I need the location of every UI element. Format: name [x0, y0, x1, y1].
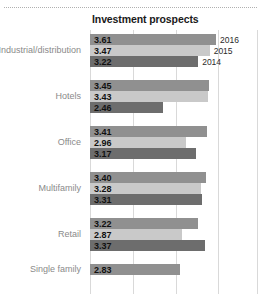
category-label-industrial-distribution: Industrial/distribution	[0, 46, 81, 55]
bar-value-label: 3.47	[94, 46, 112, 55]
bar-row: 2.96	[90, 137, 258, 148]
bar-value-label: 2.46	[94, 103, 112, 112]
bar-group: 3.412.963.17	[90, 126, 258, 159]
plot-right-border	[257, 30, 258, 294]
bar-row: 2.46	[90, 102, 258, 113]
bar-value-label: 2.96	[94, 138, 112, 147]
bar-row: 3.612016	[90, 34, 258, 45]
legend-year-2015: 2015	[210, 46, 233, 56]
bar-value-label: 3.45	[94, 81, 112, 90]
bar-value-label: 3.37	[94, 241, 112, 250]
bar-row: 3.222014	[90, 56, 258, 67]
bar-row: 3.40	[90, 172, 258, 183]
bar-row: 2.83	[90, 264, 258, 275]
bar-value-label: 3.40	[94, 173, 112, 182]
bar-row: 3.43	[90, 91, 258, 102]
bar-group: 2.83	[90, 264, 258, 275]
bar-group: 3.6120163.4720153.222014	[90, 34, 258, 67]
plot-area: 3.6120163.4720153.2220143.453.432.463.41…	[90, 30, 258, 294]
bar-value-label: 3.22	[94, 57, 112, 66]
bar-group: 3.222.873.37	[90, 218, 258, 251]
legend-year-2016: 2016	[216, 35, 239, 45]
bar-row: 3.31	[90, 194, 258, 205]
bar-row: 3.472015	[90, 45, 258, 56]
gridline	[218, 30, 219, 294]
bar-group: 3.453.432.46	[90, 80, 258, 113]
chart-title: Investment prospects	[92, 13, 199, 25]
bar-value-label: 2.87	[94, 230, 112, 239]
top-dotted-rule	[4, 7, 257, 8]
bar-value-label: 3.22	[94, 219, 112, 228]
category-label-retail: Retail	[58, 230, 81, 239]
bar-value-label: 2.83	[94, 265, 112, 274]
gridline	[90, 30, 91, 294]
investment-prospects-chart: Investment prospects Industrial/distribu…	[0, 0, 261, 302]
bar-value-label: 3.43	[94, 92, 112, 101]
category-label-single-family: Single family	[30, 265, 81, 274]
bar-group: 3.403.283.31	[90, 172, 258, 205]
bar-row: 3.41	[90, 126, 258, 137]
gridline	[133, 30, 134, 294]
bar-row: 3.45	[90, 80, 258, 91]
category-label-multifamily: Multifamily	[38, 184, 81, 193]
gridline	[176, 30, 177, 294]
bar-value-label: 3.61	[94, 35, 112, 44]
bar-value-label: 3.28	[94, 184, 112, 193]
bar-row: 3.17	[90, 148, 258, 159]
legend-year-2014: 2014	[198, 57, 221, 67]
bar-row: 2.87	[90, 229, 258, 240]
bar-value-label: 3.41	[94, 127, 112, 136]
bar-value-label: 3.17	[94, 149, 112, 158]
bar-row: 3.37	[90, 240, 258, 251]
bar-row: 3.22	[90, 218, 258, 229]
category-label-office: Office	[58, 138, 81, 147]
category-label-column: Industrial/distributionHotelsOfficeMulti…	[0, 30, 86, 294]
bar-row: 3.28	[90, 183, 258, 194]
category-label-hotels: Hotels	[55, 92, 81, 101]
bar-value-label: 3.31	[94, 195, 112, 204]
